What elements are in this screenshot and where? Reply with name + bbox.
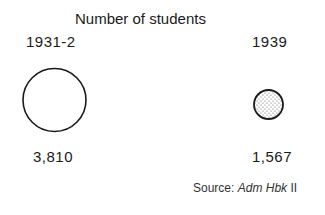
- value-label-1931-2: 3,810: [33, 148, 73, 165]
- source-note: Source: Adm Hbk II: [193, 181, 297, 195]
- value-label-1939: 1,567: [252, 148, 292, 165]
- circle-1931-2: [23, 69, 86, 132]
- source-title: Adm Hbk: [238, 181, 287, 195]
- source-suffix: II: [290, 181, 297, 195]
- circle-1939: [254, 90, 283, 119]
- source-prefix: Source:: [193, 181, 234, 195]
